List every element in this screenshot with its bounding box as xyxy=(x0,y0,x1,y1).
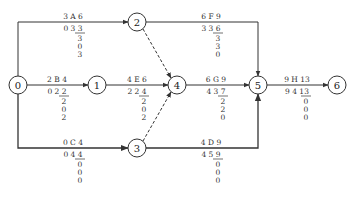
activity-times: 4 E 6 xyxy=(127,75,147,84)
activity-latest: 0 2 2 xyxy=(47,87,66,96)
node-1: 1 xyxy=(88,76,106,94)
activity-label-b: 2 B 40 2 2202 xyxy=(47,75,69,122)
node-3: 3 xyxy=(128,139,146,157)
activity-label-g: 6 G 94 3 7220 xyxy=(206,75,228,122)
activity-latest: 2 2 4 xyxy=(127,87,146,96)
node-label: 0 xyxy=(15,80,21,91)
activity-latest: 0 4 4 xyxy=(63,150,82,159)
node-label: 3 xyxy=(134,143,140,154)
float-value: 0 xyxy=(304,113,309,122)
node-2: 2 xyxy=(128,13,146,31)
activity-label-a: 3 A 60 3 3303 xyxy=(63,12,85,59)
float-value: 0 xyxy=(221,113,226,122)
activity-label-e: 4 E 62 2 4202 xyxy=(127,75,149,122)
float-value: 2 xyxy=(142,113,147,122)
activity-label-c: 0 C 40 4 4000 xyxy=(63,138,85,185)
node-label: 6 xyxy=(334,80,340,91)
float-value: 0 xyxy=(216,50,221,59)
activity-latest: 4 3 7 xyxy=(206,87,225,96)
activity-times: 0 C 4 xyxy=(63,138,83,147)
activity-latest: 3 3 6 xyxy=(201,24,220,33)
float-value: 3 xyxy=(78,50,83,59)
activity-latest: 0 3 3 xyxy=(63,24,82,33)
activity-times: 6 G 9 xyxy=(206,75,227,84)
activity-label-h: 9 H 139 4 13000 xyxy=(284,75,311,122)
float-value: 0 xyxy=(78,176,83,185)
node-label: 2 xyxy=(134,17,140,28)
activity-latest: 4 5 9 xyxy=(201,150,220,159)
node-4: 4 xyxy=(168,76,186,94)
activity-times: 4 D 9 xyxy=(201,138,222,147)
activity-times: 9 H 13 xyxy=(284,75,310,84)
node-0: 0 xyxy=(9,76,27,94)
node-label: 1 xyxy=(94,80,100,91)
float-value: 2 xyxy=(62,113,67,122)
activity-label-f: 6 F 93 3 6330 xyxy=(201,12,223,59)
node-5: 5 xyxy=(249,76,267,94)
node-6: 6 xyxy=(328,76,346,94)
node-label: 4 xyxy=(174,80,180,91)
dummy-arrow-3-4 xyxy=(143,92,171,141)
float-value: 0 xyxy=(216,176,221,185)
node-label: 5 xyxy=(255,80,261,91)
activity-times: 6 F 9 xyxy=(201,12,221,21)
dummy-arrow-2-4 xyxy=(143,29,171,78)
activity-label-d: 4 D 94 5 9000 xyxy=(201,138,223,185)
activity-times: 3 A 6 xyxy=(63,12,83,21)
activity-times: 2 B 4 xyxy=(47,75,67,84)
activity-latest: 9 4 13 xyxy=(285,87,309,96)
activity-labels: 3 A 60 3 33032 B 40 2 22020 C 40 4 40004… xyxy=(47,12,311,185)
network-diagram: 0123456 3 A 60 3 33032 B 40 2 22020 C 40… xyxy=(0,0,357,200)
